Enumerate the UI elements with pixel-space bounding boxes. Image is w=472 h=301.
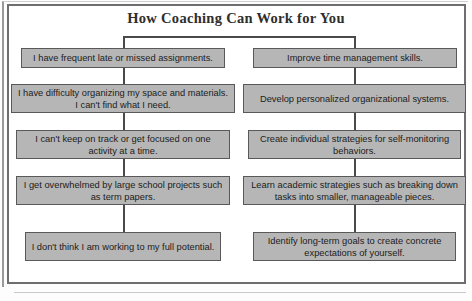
node-left-1[interactable]: I have frequent late or missed assignmen… <box>21 48 225 68</box>
node-right-5[interactable]: Identify long-term goals to create concr… <box>253 232 456 261</box>
footer-divider <box>14 292 466 293</box>
connector-left-4-5 <box>123 205 125 232</box>
node-right-3[interactable]: Create individual strategies for self-mo… <box>248 130 461 159</box>
node-right-4[interactable]: Learn academic strategies such as breaki… <box>243 176 466 205</box>
connector-left-2-3 <box>123 113 125 130</box>
connector-right-3-4 <box>354 159 356 176</box>
node-left-5[interactable]: I don't think I am working to my full po… <box>25 232 221 261</box>
connector-left-1-2 <box>123 68 125 84</box>
flowchart-page: How Coaching Can Work for You I have fre… <box>0 0 472 301</box>
node-left-3[interactable]: I can't keep on track or get focused on … <box>16 130 230 159</box>
connector-right-4-5 <box>354 205 356 232</box>
node-right-1[interactable]: Improve time management skills. <box>253 48 457 68</box>
node-right-2[interactable]: Develop personalized organizational syst… <box>243 84 466 113</box>
node-left-4[interactable]: I get overwhelmed by large school projec… <box>16 176 230 205</box>
node-left-2[interactable]: I have difficulty organizing my space an… <box>11 84 235 113</box>
bracket-horizontal-connector <box>123 36 356 38</box>
connector-left-3-4 <box>123 159 125 176</box>
connector-right-1-2 <box>354 68 356 84</box>
footer-clipped-text <box>16 296 456 301</box>
connector-right-2-3 <box>354 113 356 130</box>
page-title: How Coaching Can Work for You <box>0 10 472 27</box>
